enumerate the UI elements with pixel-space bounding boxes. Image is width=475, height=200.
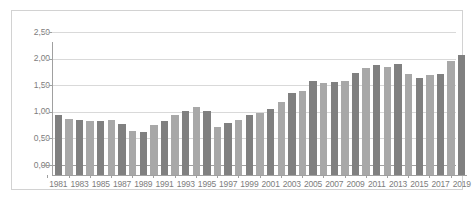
x-axis-tick-label: 2003 (281, 179, 303, 189)
x-axis-tick-label: 1995 (196, 179, 218, 189)
x-axis-tick-label: 1997 (217, 179, 239, 189)
bar-series (53, 42, 467, 175)
x-axis-tick-mark (323, 175, 324, 178)
x-axis-tick-label: 2015 (408, 179, 430, 189)
x-axis-tick-mark (366, 175, 367, 178)
bar (171, 115, 178, 175)
x-axis-tick-mark (238, 175, 239, 178)
x-axis-tick-label: 1999 (238, 179, 260, 189)
y-axis-tick-mark (49, 112, 52, 113)
gridline (42, 32, 456, 33)
bar (86, 121, 93, 175)
bar (362, 68, 369, 175)
y-axis-tick-mark (49, 59, 52, 60)
x-axis-tick-label: 2007 (323, 179, 345, 189)
bar (288, 93, 295, 175)
bar (256, 113, 263, 175)
x-axis-tick-mark (90, 175, 91, 178)
x-axis-tick-label: 2009 (345, 179, 367, 189)
chart-figure: 0,000,501,001,502,002,50 198119831985198… (0, 0, 475, 200)
x-axis-tick-mark (345, 175, 346, 178)
bar (214, 127, 221, 175)
bar (299, 91, 306, 175)
x-axis-tick-mark (387, 175, 388, 178)
bar (118, 124, 125, 175)
bar (437, 74, 444, 175)
bar (235, 120, 242, 175)
chart-frame: 0,000,501,001,502,002,50 198119831985198… (11, 10, 463, 190)
x-axis-tick-mark (408, 175, 409, 178)
bar (352, 73, 359, 175)
bar (193, 107, 200, 175)
bar (55, 115, 62, 175)
bar (246, 115, 253, 175)
bar (458, 55, 465, 175)
x-axis-tick-label: 1991 (153, 179, 175, 189)
x-axis-tick-mark (451, 175, 452, 178)
x-axis-tick-mark (217, 175, 218, 178)
x-axis-tick-labels: 1981198319851987198919911993199519971999… (53, 179, 467, 193)
x-axis-tick-mark (260, 175, 261, 178)
bar (426, 75, 433, 175)
x-axis-tick-mark (47, 175, 48, 178)
bar (161, 121, 168, 175)
y-axis-tick-mark (49, 138, 52, 139)
x-axis-tick-mark (429, 175, 430, 178)
bar (182, 111, 189, 175)
bar (278, 102, 285, 175)
bar (203, 111, 210, 175)
bar (129, 131, 136, 175)
x-axis-tick-mark (302, 175, 303, 178)
x-axis-tick-label: 2001 (260, 179, 282, 189)
bar (150, 125, 157, 175)
bar (76, 120, 83, 175)
bar (108, 120, 115, 175)
bar (224, 123, 231, 175)
bar (384, 67, 391, 175)
x-axis-tick-label: 2017 (429, 179, 451, 189)
y-axis-tick-mark (49, 32, 52, 33)
x-axis-tick-mark (69, 175, 70, 178)
bar (447, 61, 454, 175)
x-axis-tick-mark (132, 175, 133, 178)
bar (140, 132, 147, 175)
x-axis-tick-label: 1983 (69, 179, 91, 189)
x-axis-tick-label: 2013 (387, 179, 409, 189)
bar (405, 74, 412, 175)
bar (320, 83, 327, 175)
bar (394, 64, 401, 175)
x-axis-tick-label: 1993 (175, 179, 197, 189)
x-axis-tick-mark (175, 175, 176, 178)
x-axis-tick-mark (111, 175, 112, 178)
bar (331, 82, 338, 175)
bar (373, 65, 380, 175)
x-axis-tick-label: 1989 (132, 179, 154, 189)
x-axis-tick-label: 2011 (366, 179, 388, 189)
x-axis-tick-mark (153, 175, 154, 178)
x-axis-tick-label: 1987 (111, 179, 133, 189)
x-axis-tick-label: 1985 (90, 179, 112, 189)
bar (416, 78, 423, 175)
x-axis-tick-mark (196, 175, 197, 178)
x-axis-tick-label: 2019 (451, 179, 473, 189)
y-axis-tick-mark (49, 85, 52, 86)
bar (341, 81, 348, 175)
y-axis-tick-mark (49, 165, 52, 166)
x-axis-tick-mark (281, 175, 282, 178)
bar (309, 81, 316, 175)
bar (267, 109, 274, 176)
bar (65, 119, 72, 175)
x-axis-tick-label: 2005 (302, 179, 324, 189)
x-axis-tick-label: 1981 (47, 179, 69, 189)
bar (97, 121, 104, 175)
